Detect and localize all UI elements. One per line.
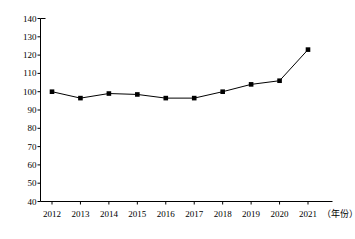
data-point-marker <box>107 91 112 96</box>
x-axis-tick-label: 2020 <box>264 209 296 219</box>
x-axis-tick-label: 2018 <box>207 209 239 219</box>
x-axis-tick-label: 2016 <box>150 209 182 219</box>
chart-axes <box>41 19 333 202</box>
y-axis-tick-label: 130 <box>13 32 37 42</box>
data-point-marker <box>249 82 254 87</box>
chart-tick-marks <box>38 19 309 205</box>
x-axis-tick-label: 2014 <box>93 209 125 219</box>
chart-plot-area <box>0 0 355 239</box>
data-point-marker <box>135 92 140 97</box>
data-point-marker <box>192 96 197 101</box>
line-chart: 405060708090100110120130140 201220132014… <box>0 0 355 239</box>
data-point-marker <box>220 89 225 94</box>
x-axis-unit-label: （年份） <box>322 209 355 219</box>
x-axis-tick-label: 2015 <box>121 209 153 219</box>
y-axis-tick-label: 90 <box>13 105 37 115</box>
x-axis-tick-label: 2021 <box>292 209 324 219</box>
y-axis-tick-label: 110 <box>13 68 37 78</box>
x-axis-tick-label: 2017 <box>178 209 210 219</box>
x-axis-tick-label: 2013 <box>64 209 96 219</box>
data-point-markers <box>50 47 311 100</box>
data-series-line <box>52 50 308 99</box>
y-axis-tick-label: 100 <box>13 87 37 97</box>
y-axis-tick-label: 120 <box>13 50 37 60</box>
x-axis-tick-label: 2012 <box>36 209 68 219</box>
y-axis-tick-label: 140 <box>13 14 37 24</box>
data-point-marker <box>306 47 311 52</box>
y-axis-tick-label: 80 <box>13 123 37 133</box>
data-point-marker <box>50 89 55 94</box>
data-point-marker <box>78 96 83 101</box>
x-axis-tick-label: 2019 <box>235 209 267 219</box>
y-axis-tick-label: 50 <box>13 178 37 188</box>
y-axis-tick-label: 40 <box>13 197 37 207</box>
y-axis-tick-label: 60 <box>13 160 37 170</box>
y-axis-tick-label: 70 <box>13 142 37 152</box>
data-point-marker <box>163 96 168 101</box>
data-point-marker <box>277 78 282 83</box>
